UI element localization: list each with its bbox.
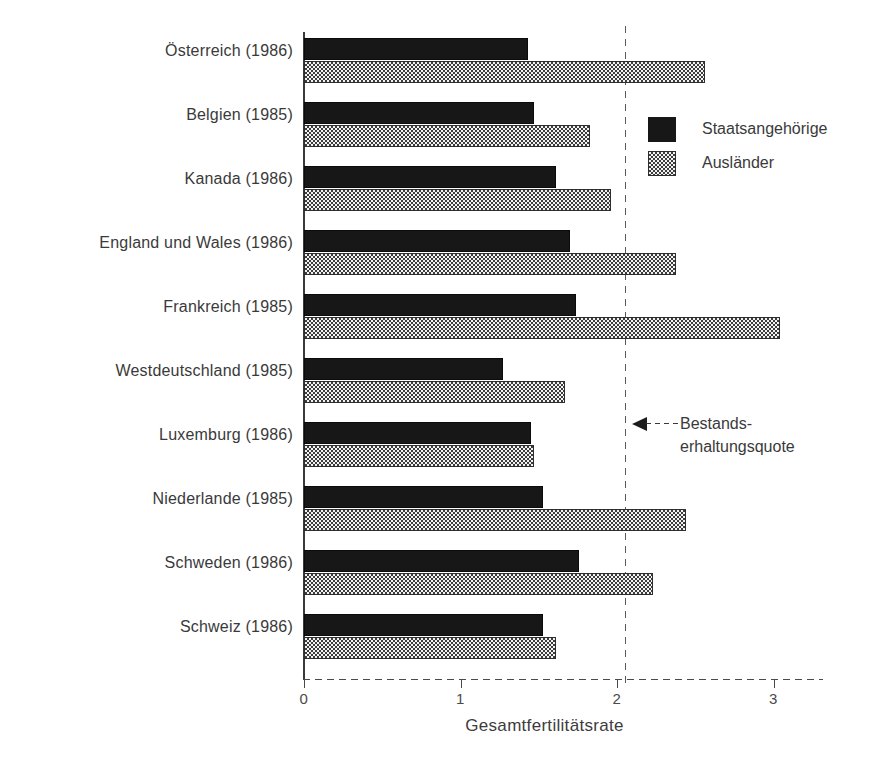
x-tick-0 [304, 679, 305, 688]
x-axis-line [303, 679, 823, 680]
bar-staatsangehoerige-8 [304, 550, 579, 572]
bar-auslaender-5 [304, 381, 565, 403]
fertility-rate-bar-chart: 0123 Österreich (1986)Belgien (1985)Kana… [0, 0, 889, 779]
category-label-9: Schweiz (1986) [180, 618, 293, 636]
category-label-2: Kanada (1986) [185, 170, 293, 188]
bar-auslaender-8 [304, 573, 653, 595]
category-label-4: Frankreich (1985) [163, 298, 293, 316]
bar-auslaender-1 [304, 125, 590, 147]
category-label-7: Niederlande (1985) [152, 490, 293, 508]
legend: Staatsangehörige Ausländer [648, 112, 827, 180]
annotation-line-2: erhaltungsquote [680, 438, 795, 455]
bar-staatsangehoerige-6 [304, 422, 531, 444]
bar-staatsangehoerige-0 [304, 38, 528, 60]
legend-swatch-checker-gray-icon [648, 151, 676, 176]
category-label-8: Schweden (1986) [165, 554, 293, 572]
x-tick-2 [617, 679, 618, 688]
category-label-6: Luxemburg (1986) [159, 426, 293, 444]
x-tick-label-1: 1 [456, 690, 465, 707]
bar-staatsangehoerige-5 [304, 358, 503, 380]
bar-auslaender-2 [304, 189, 611, 211]
category-label-0: Österreich (1986) [165, 42, 293, 60]
x-tick-1 [461, 679, 462, 688]
bar-auslaender-4 [304, 317, 780, 339]
bar-staatsangehoerige-2 [304, 166, 556, 188]
x-tick-label-3: 3 [769, 690, 778, 707]
legend-label-staatsangehoerige: Staatsangehörige [702, 120, 827, 138]
annotation-line-1: Bestands- [680, 415, 752, 432]
bar-staatsangehoerige-1 [304, 102, 534, 124]
category-label-3: England und Wales (1986) [99, 234, 293, 252]
bar-auslaender-3 [304, 253, 676, 275]
legend-label-auslaender: Ausländer [702, 154, 774, 172]
bar-auslaender-7 [304, 509, 686, 531]
category-label-5: Westdeutschland (1985) [115, 362, 293, 380]
annotation-text: Bestands- erhaltungsquote [680, 412, 795, 458]
x-tick-3 [774, 679, 775, 688]
category-label-1: Belgien (1985) [186, 106, 293, 124]
legend-item-auslaender: Ausländer [648, 146, 827, 180]
bar-staatsangehoerige-4 [304, 294, 576, 316]
bar-staatsangehoerige-9 [304, 614, 543, 636]
bar-auslaender-0 [304, 61, 705, 83]
arrow-left-icon [632, 414, 680, 434]
bar-auslaender-6 [304, 445, 534, 467]
bar-auslaender-9 [304, 637, 556, 659]
x-tick-label-0: 0 [300, 690, 309, 707]
x-axis-title: Gesamtfertilitätsrate [0, 716, 889, 736]
legend-item-staatsangehoerige: Staatsangehörige [648, 112, 827, 146]
bar-staatsangehoerige-7 [304, 486, 543, 508]
x-axis-title-text: Gesamtfertilitätsrate [465, 716, 623, 736]
bar-staatsangehoerige-3 [304, 230, 570, 252]
annotation-bestandserhaltungsquote: Bestands- erhaltungsquote [632, 412, 795, 458]
legend-swatch-solid-dark-icon [648, 117, 676, 142]
x-tick-label-2: 2 [613, 690, 622, 707]
